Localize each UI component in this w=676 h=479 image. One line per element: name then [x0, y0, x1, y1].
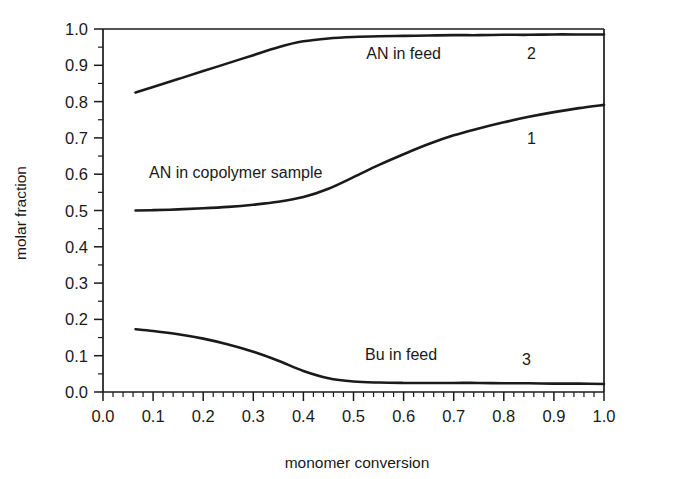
x-tick-label: 0.6	[392, 407, 415, 425]
y-axis-title: molar fraction	[12, 166, 29, 260]
y-tick-label: 0.4	[65, 238, 88, 256]
annotation-label: 2	[527, 45, 536, 62]
molar-fraction-vs-conversion-chart: 0.00.10.20.30.40.50.60.70.80.91.0 0.00.1…	[0, 0, 676, 479]
y-tick-label: 0.2	[65, 310, 88, 328]
x-tick-label: 0.3	[242, 407, 265, 425]
x-axis-title: monomer conversion	[285, 454, 430, 471]
x-tick-label: 0.9	[542, 407, 565, 425]
y-tick-label: 0.8	[65, 93, 88, 111]
y-tick-label: 1.0	[65, 20, 88, 38]
annotation-label: AN in feed	[366, 45, 441, 62]
y-tick-label: 0.0	[65, 383, 88, 401]
annotation-label: AN in copolymer sample	[149, 164, 323, 181]
y-tick-label: 0.1	[65, 347, 88, 365]
x-tick-label: 0.4	[292, 407, 315, 425]
x-tick-label: 0.8	[492, 407, 515, 425]
x-tick-label: 0.1	[142, 407, 165, 425]
annotation-label: Bu in feed	[365, 346, 437, 363]
y-tick-label: 0.9	[65, 56, 88, 74]
x-tick-label: 1.0	[593, 407, 616, 425]
y-tick-label: 0.6	[65, 165, 88, 183]
x-tick-label: 0.0	[92, 407, 115, 425]
annotation-label: 1	[527, 130, 536, 147]
y-tick-label: 0.7	[65, 129, 88, 147]
x-tick-label: 0.5	[342, 407, 365, 425]
x-tick-label: 0.7	[442, 407, 465, 425]
annotation-label: 3	[522, 351, 531, 368]
y-tick-label: 0.5	[65, 202, 88, 220]
chart-figure: 0.00.10.20.30.40.50.60.70.80.91.0 0.00.1…	[0, 0, 676, 479]
x-tick-label: 0.2	[192, 407, 215, 425]
y-tick-label: 0.3	[65, 274, 88, 292]
